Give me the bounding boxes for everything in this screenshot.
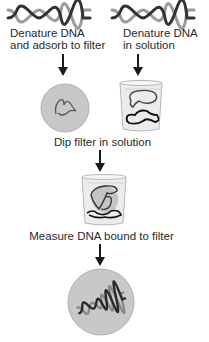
step-label-right-line2: in solution — [123, 39, 198, 51]
step-label-merge: Dip filter in solution — [0, 136, 205, 148]
dna-helix-icon — [6, 6, 92, 22]
arrow-down-icon — [95, 244, 105, 266]
result-filter-disc-icon — [67, 268, 135, 336]
step-label-right-line1: Denature DNA — [123, 27, 198, 39]
arrow-down-icon — [58, 54, 68, 76]
beaker-with-filter-icon — [79, 173, 129, 227]
filter-disc-icon — [40, 83, 90, 133]
step-label-right: Denature DNA in solution — [123, 27, 198, 51]
arrow-down-icon — [133, 54, 143, 76]
dna-helix-icon — [110, 6, 196, 22]
step-label-measure: Measure DNA bound to filter — [0, 230, 203, 242]
step-label-left-line1: Denature DNA — [10, 27, 105, 39]
step-label-left-line2: and adsorb to filter — [10, 39, 105, 51]
beaker-icon — [117, 79, 165, 133]
arrow-down-icon — [95, 150, 105, 172]
step-label-left: Denature DNA and adsorb to filter — [10, 27, 105, 51]
